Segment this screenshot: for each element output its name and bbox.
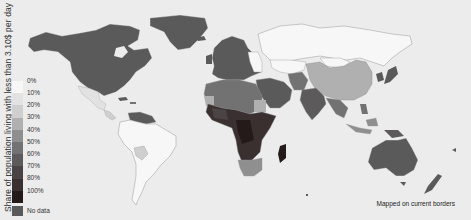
choropleth-map (0, 0, 471, 220)
region-new-zealand[interactable] (424, 174, 442, 194)
legend-swatch (12, 105, 23, 117)
legend-label: 70% (27, 163, 40, 170)
legend-item: 100% (12, 191, 62, 203)
legend-swatch (12, 118, 23, 130)
region-south-america[interactable] (118, 120, 176, 205)
region-australia[interactable] (368, 138, 418, 176)
legend-label: 20% (27, 102, 40, 109)
legend-swatch (12, 81, 23, 93)
legend-label: 10% (27, 90, 40, 97)
legend-swatch (12, 130, 23, 142)
legend-label: 100% (27, 188, 44, 195)
legend-swatch (12, 154, 23, 166)
legend-item-no-data: No data (12, 206, 62, 216)
region-japan-korea[interactable] (376, 66, 398, 84)
region-central-america[interactable] (104, 110, 116, 120)
legend-label: 50% (27, 139, 40, 146)
legend-swatch (12, 206, 23, 216)
region-southern-africa[interactable] (238, 158, 262, 176)
legend-label: 80% (27, 175, 40, 182)
region-madagascar[interactable] (278, 144, 286, 163)
region-greenland[interactable] (150, 15, 208, 50)
world-map: Share of population living with less tha… (0, 0, 471, 220)
legend-swatch (12, 166, 23, 178)
legend-label: 0% (27, 78, 36, 85)
legend: 0% 10% 20% 30% 40% 50% 60% 70% (12, 81, 62, 216)
legend-label: 40% (27, 127, 40, 134)
legend-swatch (12, 179, 23, 191)
region-southeast-asia[interactable] (326, 98, 348, 118)
legend-label: 60% (27, 151, 40, 158)
legend-label: 30% (27, 114, 40, 121)
legend-label: No data (27, 208, 50, 215)
legend-swatch (12, 142, 23, 154)
map-note: Mapped on current borders (377, 200, 455, 207)
legend-swatch (12, 191, 23, 203)
legend-swatch (12, 93, 23, 105)
